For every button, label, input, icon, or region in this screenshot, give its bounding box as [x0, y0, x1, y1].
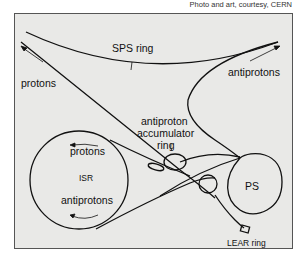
sps-ring-label: SPS ring	[112, 42, 154, 54]
accumulator-label-1: antiproton	[141, 115, 188, 127]
accumulator-label-2: accumulator	[137, 127, 195, 139]
antiproton-transfer-line	[188, 42, 278, 158]
isr-antiprotons-label: antiprotons	[61, 194, 113, 206]
protons-label: protons	[21, 77, 56, 89]
antiprotons-label: antiprotons	[228, 66, 280, 78]
lear-ring	[240, 225, 249, 233]
accumulator-ring	[164, 154, 186, 170]
ps-label: PS	[245, 180, 259, 192]
accelerator-diagram: SPS ring protons antiprotons antiproton …	[0, 0, 304, 262]
accumulator-label-3: ring	[157, 139, 175, 151]
lear-ring-label: LEAR ring	[227, 238, 266, 248]
isr-label: ISR	[79, 173, 93, 183]
isr-protons-label: protons	[70, 145, 105, 157]
